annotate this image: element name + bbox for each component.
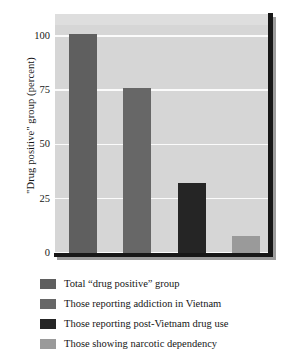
legend-label: Those reporting post-Vietnam drug use (64, 319, 228, 330)
axis-bottom-shadow (57, 257, 276, 260)
y-tick-label: 50 (18, 139, 50, 150)
legend-swatch (40, 279, 56, 289)
legend-swatch (40, 319, 56, 329)
legend-item: Those showing narcotic dependency (40, 334, 280, 354)
bar (123, 88, 151, 253)
bars-group (55, 14, 272, 253)
bar (69, 34, 97, 253)
plot-area (55, 14, 272, 253)
legend-swatch (40, 299, 56, 309)
legend-item: Total “drug positive” group (40, 274, 280, 294)
y-tick-label: 75 (18, 85, 50, 96)
axis-right-rule (268, 13, 273, 257)
bar (178, 183, 206, 253)
bar-chart-figure: "Drug positive" group (percent) 02550751… (0, 0, 284, 362)
axis-bottom-rule (54, 253, 273, 257)
legend-label: Total “drug positive” group (64, 279, 180, 290)
legend-label: Those showing narcotic dependency (64, 339, 217, 350)
axis-right-shadow (273, 17, 276, 260)
chart-legend: Total “drug positive” groupThose reporti… (40, 274, 280, 354)
legend-item: Those reporting addiction in Vietnam (40, 294, 280, 314)
legend-swatch (40, 339, 56, 349)
y-tick-label: 100 (18, 30, 50, 41)
legend-label: Those reporting addiction in Vietnam (64, 299, 221, 310)
y-tick-label: 0 (18, 248, 50, 259)
y-axis-ticks: 0255075100 (18, 14, 50, 253)
y-tick-label: 25 (18, 193, 50, 204)
bar (232, 236, 260, 253)
legend-item: Those reporting post-Vietnam drug use (40, 314, 280, 334)
